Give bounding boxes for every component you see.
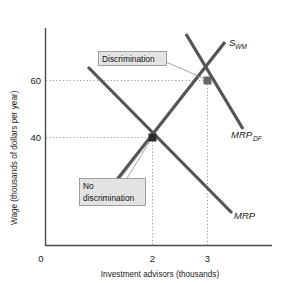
discrimination-callout-label: Discrimination bbox=[102, 54, 155, 64]
curve-labels: S WM MRP DF MRP bbox=[229, 37, 263, 221]
economics-chart: 60 40 0 2 3 Wage (thousands of dollars p… bbox=[0, 0, 286, 283]
y-tick-label-40: 40 bbox=[30, 132, 41, 143]
discrimination-callout[interactable]: Discrimination bbox=[99, 52, 167, 66]
no-discrimination-callout-line-1: No bbox=[83, 181, 94, 191]
y-axis-title: Wage (thousands of dollars per year) bbox=[10, 90, 19, 225]
no-discrimination-callout[interactable]: No discrimination bbox=[80, 179, 146, 206]
x-tick-label-3: 3 bbox=[205, 253, 210, 264]
discrimination-marker bbox=[204, 77, 212, 85]
mrp-df-curve-label: MRP bbox=[231, 129, 253, 140]
x-axis-ticks: 0 2 3 bbox=[38, 253, 210, 264]
y-axis-ticks: 60 40 bbox=[30, 75, 41, 143]
x-tick-label-0: 0 bbox=[38, 253, 43, 264]
y-tick-label-60: 60 bbox=[30, 75, 41, 86]
supply-curve-label-subscript: WM bbox=[235, 43, 247, 50]
x-tick-label-2: 2 bbox=[150, 253, 155, 264]
chart-canvas: 60 40 0 2 3 Wage (thousands of dollars p… bbox=[0, 0, 286, 283]
equilibrium-markers bbox=[149, 77, 212, 142]
no-discrimination-leader-line-b bbox=[119, 141, 149, 180]
no-discrimination-leader-line-a bbox=[126, 141, 150, 180]
mrp-curve-label: MRP bbox=[234, 210, 256, 221]
no-discrimination-marker bbox=[149, 134, 157, 142]
x-axis-title: Investment advisors (thousands) bbox=[101, 270, 220, 279]
mrp-df-curve-label-subscript: DF bbox=[253, 135, 263, 142]
discrimination-leader-line bbox=[166, 62, 205, 79]
no-discrimination-callout-line-2: discrimination bbox=[83, 193, 135, 203]
